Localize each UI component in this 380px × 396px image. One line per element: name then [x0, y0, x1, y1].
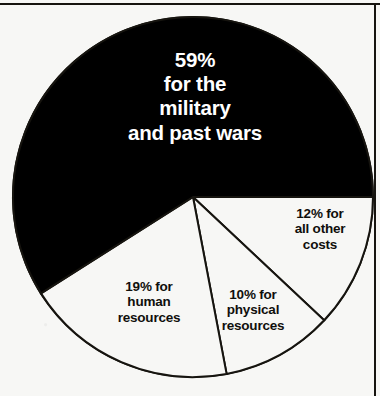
- pie-chart-graphic: [0, 0, 380, 396]
- pie-chart-figure: 59% for the military and past wars 12% f…: [0, 0, 380, 396]
